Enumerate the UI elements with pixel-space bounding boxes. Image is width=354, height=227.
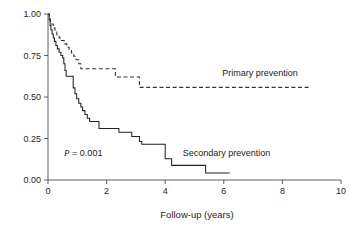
y-tick-label-3: 0.75 xyxy=(23,51,41,61)
series-label-secondary-prevention: Secondary prevention xyxy=(183,148,271,158)
x-tick-label-5: 10 xyxy=(336,186,346,196)
y-tick-label-1: 0.25 xyxy=(23,134,41,144)
y-tick-label-2: 0.50 xyxy=(23,92,41,102)
statistic-annotations: P = 0.001 xyxy=(63,148,102,158)
x-tick-label-4: 8 xyxy=(280,186,285,196)
survival-plot: 0.000.250.500.751.00 0246810 Primary pre… xyxy=(0,0,354,227)
y-axis-tick-labels: 0.000.250.500.751.00 xyxy=(23,9,41,185)
tick-marks xyxy=(44,14,341,184)
x-tick-label-2: 4 xyxy=(163,186,168,196)
p-value-number: = 0.001 xyxy=(70,148,103,158)
x-tick-label-0: 0 xyxy=(45,186,50,196)
y-tick-label-4: 1.00 xyxy=(23,9,41,19)
series-annotations: Primary preventionSecondary prevention xyxy=(183,68,298,158)
x-axis-title: Follow-up (years) xyxy=(160,209,233,220)
p-value-annotation: P = 0.001 xyxy=(63,148,102,158)
x-tick-label-3: 6 xyxy=(221,186,226,196)
x-tick-label-1: 2 xyxy=(104,186,109,196)
series-label-primary-prevention: Primary prevention xyxy=(222,68,298,78)
x-axis-tick-labels: 0246810 xyxy=(45,186,346,196)
y-tick-label-0: 0.00 xyxy=(23,175,41,185)
kaplan-meier-figure: 0.000.250.500.751.00 0246810 Primary pre… xyxy=(0,0,354,227)
